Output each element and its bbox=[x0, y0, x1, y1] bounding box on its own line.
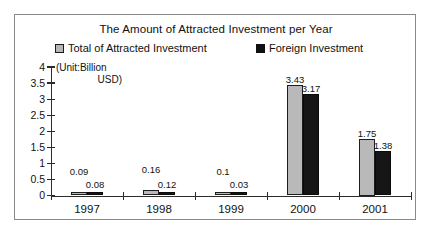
chart-legend: Total of Attracted Investment Foreign In… bbox=[15, 42, 417, 56]
legend-item-total: Total of Attracted Investment bbox=[55, 42, 207, 54]
y-tick bbox=[47, 66, 55, 67]
bar-value-label: 1.75 bbox=[347, 128, 387, 139]
bar-foreign[interactable] bbox=[231, 192, 247, 195]
bar-total[interactable] bbox=[287, 85, 303, 195]
unit-note-line1: (Unit:Billion bbox=[56, 62, 107, 73]
x-axis bbox=[51, 196, 411, 197]
y-axis-label: 2 bbox=[13, 126, 45, 136]
y-tick bbox=[47, 82, 55, 83]
y-axis-label: 1 bbox=[13, 158, 45, 168]
bar-value-label: 0.16 bbox=[131, 164, 171, 175]
bar-foreign[interactable] bbox=[303, 94, 319, 196]
y-tick bbox=[47, 131, 55, 132]
y-tick bbox=[47, 99, 55, 100]
x-tick bbox=[267, 192, 268, 200]
legend-label-total: Total of Attracted Investment bbox=[68, 42, 207, 54]
x-axis-label: 2000 bbox=[268, 203, 338, 215]
x-tick bbox=[339, 192, 340, 200]
x-tick bbox=[195, 192, 196, 200]
y-axis-label: 2.5 bbox=[13, 110, 45, 120]
y-axis-label: 3 bbox=[13, 94, 45, 104]
legend-item-foreign: Foreign Investment bbox=[256, 42, 363, 54]
x-axis-label: 1998 bbox=[124, 203, 194, 215]
bar-value-label: 0.1 bbox=[203, 166, 243, 177]
x-tick bbox=[123, 192, 124, 200]
x-axis-label: 1999 bbox=[196, 203, 266, 215]
y-axis-label: 4 bbox=[13, 62, 45, 72]
bar-foreign[interactable] bbox=[159, 192, 175, 196]
chart-title: The Amount of Attracted Investment per Y… bbox=[15, 23, 417, 35]
bar-value-label: 0.08 bbox=[75, 179, 115, 190]
bar-foreign[interactable] bbox=[375, 151, 391, 195]
bar-foreign[interactable] bbox=[87, 192, 103, 195]
chart-frame: The Amount of Attracted Investment per Y… bbox=[14, 14, 416, 220]
bar-value-label: 0.09 bbox=[59, 166, 99, 177]
y-axis-label: 3.5 bbox=[13, 78, 45, 88]
y-axis-label: 1.5 bbox=[13, 142, 45, 152]
y-tick bbox=[47, 163, 55, 164]
x-tick bbox=[51, 192, 52, 200]
bar-value-label: 0.03 bbox=[219, 179, 259, 190]
x-tick bbox=[411, 192, 412, 200]
bar-value-label: 3.17 bbox=[291, 83, 331, 94]
y-tick bbox=[47, 115, 55, 116]
plot-area: (Unit:Billion USD) 00.511.522.533.54 199… bbox=[15, 61, 417, 221]
y-tick bbox=[47, 147, 55, 148]
unit-note: (Unit:Billion USD) bbox=[56, 62, 134, 85]
legend-label-foreign: Foreign Investment bbox=[269, 42, 363, 54]
bar-value-label: 1.38 bbox=[363, 140, 403, 151]
y-axis-label: 0.5 bbox=[13, 174, 45, 184]
unit-note-line2: USD) bbox=[56, 74, 134, 86]
legend-swatch-foreign-icon bbox=[256, 44, 265, 53]
legend-swatch-total-icon bbox=[55, 44, 64, 53]
bar-total[interactable] bbox=[71, 192, 87, 195]
x-axis-label: 2001 bbox=[340, 203, 410, 215]
bar-value-label: 0.12 bbox=[147, 179, 187, 190]
x-axis-label: 1997 bbox=[52, 203, 122, 215]
y-axis-label: 0 bbox=[13, 190, 45, 200]
bar-total[interactable] bbox=[215, 192, 231, 195]
y-tick bbox=[47, 179, 55, 180]
bar-total[interactable] bbox=[143, 190, 159, 195]
